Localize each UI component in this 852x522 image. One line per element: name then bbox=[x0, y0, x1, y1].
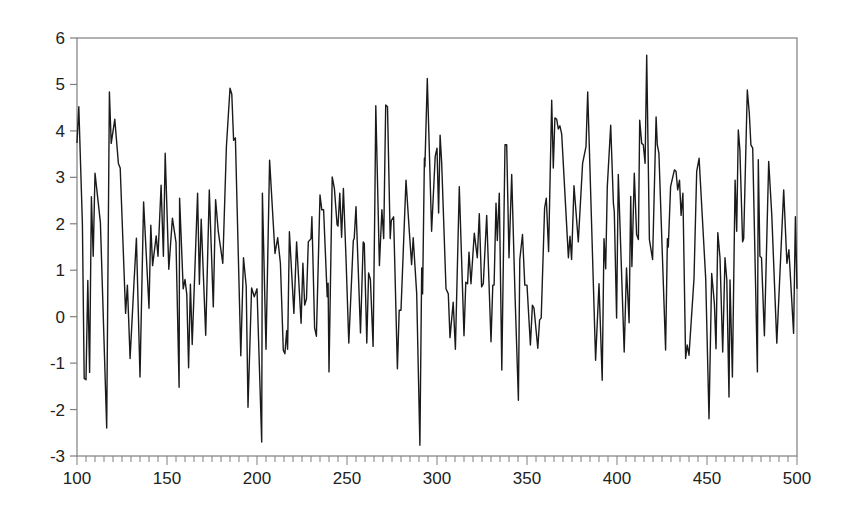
y-axis: -3-2-10123456 bbox=[50, 29, 77, 466]
chart-canvas: -3-2-10123456 10015020025030035040045050… bbox=[0, 0, 852, 522]
x-tick-label: 500 bbox=[783, 469, 811, 488]
x-tick-label: 350 bbox=[513, 469, 541, 488]
y-tick-label: 0 bbox=[56, 308, 65, 327]
x-tick-label: 450 bbox=[693, 469, 721, 488]
x-tick-label: 400 bbox=[603, 469, 631, 488]
x-tick-label: 150 bbox=[153, 469, 181, 488]
x-tick-label: 100 bbox=[63, 469, 91, 488]
y-tick-label: 5 bbox=[56, 75, 65, 94]
y-tick-label: 2 bbox=[56, 215, 65, 234]
x-tick-label: 300 bbox=[423, 469, 451, 488]
y-tick-label: 3 bbox=[56, 168, 65, 187]
x-tick-label: 250 bbox=[333, 469, 361, 488]
x-tick-label: 200 bbox=[243, 469, 271, 488]
y-tick-label: 6 bbox=[56, 29, 65, 48]
y-tick-label: -2 bbox=[50, 401, 65, 420]
y-tick-label: -1 bbox=[50, 354, 65, 373]
x-axis: 100150200250300350400450500 bbox=[63, 456, 811, 488]
y-tick-label: 4 bbox=[56, 122, 65, 141]
line-chart: -3-2-10123456 10015020025030035040045050… bbox=[0, 0, 852, 522]
data-line bbox=[77, 55, 797, 445]
y-tick-label: 1 bbox=[56, 261, 65, 280]
plot-frame bbox=[77, 38, 797, 456]
y-tick-label: -3 bbox=[50, 447, 65, 466]
